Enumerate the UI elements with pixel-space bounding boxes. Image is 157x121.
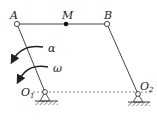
- label-A: A: [9, 9, 18, 22]
- joint-A: [14, 21, 19, 26]
- label-omega: ω: [53, 62, 62, 75]
- label-O2: O2: [140, 80, 154, 94]
- label-M: M: [61, 9, 74, 22]
- linkage-diagram: A M B α ω O1 O2: [0, 0, 157, 121]
- point-M: [64, 22, 69, 27]
- label-B: B: [103, 9, 112, 22]
- omega-arrow-icon: [19, 66, 48, 80]
- joint-B: [104, 21, 109, 26]
- joint-O1: [43, 90, 48, 95]
- label-alpha: α: [48, 42, 56, 55]
- label-O1: O1: [21, 86, 35, 100]
- link-O1A: [17, 24, 45, 92]
- alpha-arrow-icon: [13, 47, 43, 60]
- link-BO2: [107, 24, 138, 94]
